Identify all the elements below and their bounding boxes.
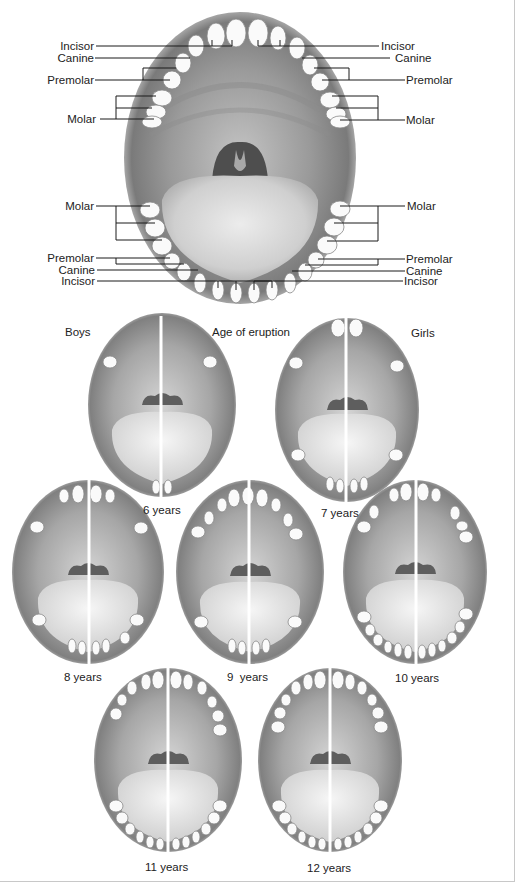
label-lower-left-premolar: Premolar xyxy=(30,252,94,264)
caption-10-years: 10 years xyxy=(395,672,439,684)
stage-10-years-mouth xyxy=(343,478,487,665)
dental-illustration xyxy=(0,0,523,896)
label-upper-left-molar: Molar xyxy=(30,113,96,125)
caption-6-years: 6 years xyxy=(143,504,181,516)
caption-9-years: 9 years xyxy=(227,671,268,683)
label-upper-right-premolar: Premolar xyxy=(406,74,453,86)
label-upper-right-incisor: Incisor xyxy=(381,40,415,52)
main-mouth xyxy=(124,12,356,304)
stage-12-years-mouth xyxy=(258,664,402,854)
label-upper-right-molar: Molar xyxy=(406,114,435,126)
stage-9-years-mouth xyxy=(176,480,324,665)
label-upper-left-premolar: Premolar xyxy=(30,74,94,86)
heading-age-of-eruption: Age of eruption xyxy=(212,326,290,338)
heading-girls: Girls xyxy=(411,327,435,339)
caption-8-years: 8 years xyxy=(64,671,102,683)
label-upper-right-canine: Canine xyxy=(395,52,431,64)
stage-11-years-mouth xyxy=(94,664,242,854)
caption-11-years: 11 years xyxy=(145,861,188,873)
heading-boys: Boys xyxy=(65,326,91,338)
stage-8-years-mouth xyxy=(12,480,164,665)
label-upper-left-incisor: Incisor xyxy=(30,40,94,52)
label-lower-right-incisor: Incisor xyxy=(404,275,438,287)
stage-7-years-mouth xyxy=(275,314,419,505)
label-lower-right-molar: Molar xyxy=(407,200,436,212)
label-lower-left-molar: Molar xyxy=(30,200,94,212)
label-lower-left-incisor: Incisor xyxy=(30,275,95,287)
label-upper-left-canine: Canine xyxy=(30,52,94,64)
stage-6-years-mouth xyxy=(88,313,236,500)
label-lower-right-premolar: Premolar xyxy=(406,253,453,265)
caption-7-years: 7 years xyxy=(321,507,359,519)
caption-12-years: 12 years xyxy=(307,862,351,874)
